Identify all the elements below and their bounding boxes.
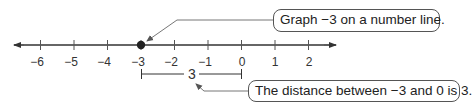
distance-callout-text: The distance between −3 and 0 is 3. — [255, 83, 472, 98]
graph-callout-text: Graph −3 on a number line. — [280, 12, 445, 27]
distance-callout: The distance between −3 and 0 is 3. — [248, 80, 460, 102]
graph-callout-pointer — [147, 20, 273, 41]
tick-label: 2 — [306, 55, 313, 69]
distance-label: 3 — [188, 66, 196, 82]
graphed-point — [137, 41, 145, 49]
graph-callout: Graph −3 on a number line. — [273, 9, 440, 32]
tick-label: 0 — [239, 55, 246, 69]
tick-label: −3 — [131, 55, 145, 69]
tick-label: −1 — [198, 55, 212, 69]
tick-label: 1 — [272, 55, 279, 69]
distance-callout-pointer — [196, 84, 248, 91]
tick-label: −4 — [97, 55, 111, 69]
tick-label: −2 — [164, 55, 178, 69]
tick-labels: −6 −5 −4 −3 −2 −1 0 1 2 — [30, 55, 313, 69]
tick-label: −6 — [30, 55, 44, 69]
tick-label: −5 — [64, 55, 78, 69]
